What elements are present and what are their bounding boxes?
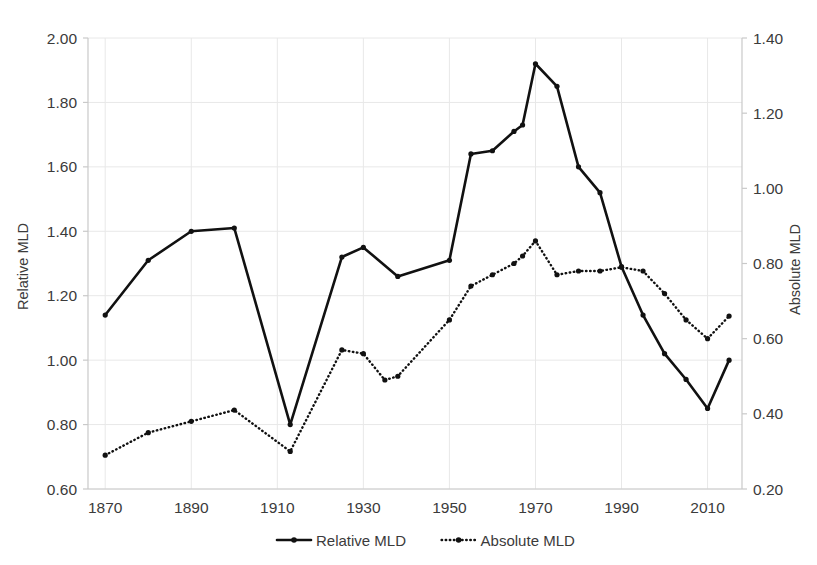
data-point-marker xyxy=(640,268,645,273)
y2-axis-tick-label: 1.00 xyxy=(753,180,784,197)
data-point-marker xyxy=(447,258,452,263)
x-axis-tick-label: 1950 xyxy=(432,499,467,516)
data-point-marker xyxy=(705,406,710,411)
chart-background xyxy=(0,0,817,565)
y-axis-tick-label: 1.40 xyxy=(47,223,78,240)
data-point-marker xyxy=(554,272,559,277)
data-point-marker xyxy=(640,312,645,317)
data-point-marker xyxy=(103,453,108,458)
data-point-marker xyxy=(395,274,400,279)
y2-axis-tick-label: 0.60 xyxy=(753,330,784,347)
y2-axis-tick-label: 0.80 xyxy=(753,255,784,272)
y2-axis-title: Absolute MLD xyxy=(787,224,803,315)
data-point-marker xyxy=(395,374,400,379)
data-point-marker xyxy=(189,419,194,424)
data-point-marker xyxy=(683,317,688,322)
mld-line-chart: 0.600.801.001.201.401.601.802.00 0.200.4… xyxy=(0,0,817,565)
y-axis-tick-label: 1.20 xyxy=(47,287,78,304)
data-point-marker xyxy=(447,317,452,322)
data-point-marker xyxy=(726,358,731,363)
data-point-marker xyxy=(520,122,525,127)
y2-axis-tick-label: 1.20 xyxy=(753,105,784,122)
data-point-marker xyxy=(339,347,344,352)
data-point-marker xyxy=(490,272,495,277)
data-point-marker xyxy=(146,258,151,263)
chart-container: 0.600.801.001.201.401.601.802.00 0.200.4… xyxy=(0,0,817,565)
y2-axis-tick-label: 0.40 xyxy=(753,405,784,422)
y-axis-tick-label: 0.60 xyxy=(47,481,78,498)
data-point-marker xyxy=(597,268,602,273)
data-point-marker xyxy=(490,148,495,153)
y2-axis-tick-label: 1.40 xyxy=(753,30,784,47)
data-point-marker xyxy=(232,225,237,230)
data-point-marker xyxy=(662,351,667,356)
y-axis-tick-label: 1.80 xyxy=(47,94,78,111)
data-point-marker xyxy=(103,312,108,317)
x-axis-tick-label: 1970 xyxy=(518,499,553,516)
data-point-marker xyxy=(576,268,581,273)
x-axis-tick-label: 1910 xyxy=(260,499,295,516)
data-point-marker xyxy=(468,151,473,156)
data-point-marker xyxy=(576,164,581,169)
data-point-marker xyxy=(339,254,344,259)
x-axis-tick-label: 2010 xyxy=(690,499,725,516)
data-point-marker xyxy=(146,430,151,435)
data-point-marker xyxy=(554,84,559,89)
data-point-marker xyxy=(533,238,538,243)
y-axis-tick-label: 1.60 xyxy=(47,158,78,175)
data-point-marker xyxy=(468,283,473,288)
legend-marker xyxy=(291,537,297,543)
x-axis-tick-label: 1990 xyxy=(604,499,639,516)
data-point-marker xyxy=(232,407,237,412)
y-axis-tick-label: 1.00 xyxy=(47,352,78,369)
data-point-marker xyxy=(705,336,710,341)
x-axis-tick-label: 1870 xyxy=(88,499,123,516)
data-point-marker xyxy=(511,261,516,266)
data-point-marker xyxy=(619,265,624,270)
data-point-marker xyxy=(288,422,293,427)
data-point-marker xyxy=(662,291,667,296)
y-axis-tick-label: 0.80 xyxy=(47,416,78,433)
data-point-marker xyxy=(189,229,194,234)
legend-label: Absolute MLD xyxy=(481,532,575,549)
y-axis-tick-label: 2.00 xyxy=(47,30,78,47)
data-point-marker xyxy=(288,449,293,454)
data-point-marker xyxy=(533,61,538,66)
y2-axis-tick-label: 0.20 xyxy=(753,481,784,498)
y-axis-title: Relative MLD xyxy=(15,223,31,310)
data-point-marker xyxy=(683,377,688,382)
data-point-marker xyxy=(597,190,602,195)
data-point-marker xyxy=(511,129,516,134)
data-point-marker xyxy=(382,377,387,382)
x-axis-tick-label: 1930 xyxy=(346,499,381,516)
legend-label: Relative MLD xyxy=(316,532,406,549)
data-point-marker xyxy=(361,351,366,356)
data-point-marker xyxy=(361,245,366,250)
data-point-marker xyxy=(726,314,731,319)
x-axis-tick-label: 1890 xyxy=(174,499,209,516)
legend-marker xyxy=(456,537,462,543)
data-point-marker xyxy=(520,253,525,258)
